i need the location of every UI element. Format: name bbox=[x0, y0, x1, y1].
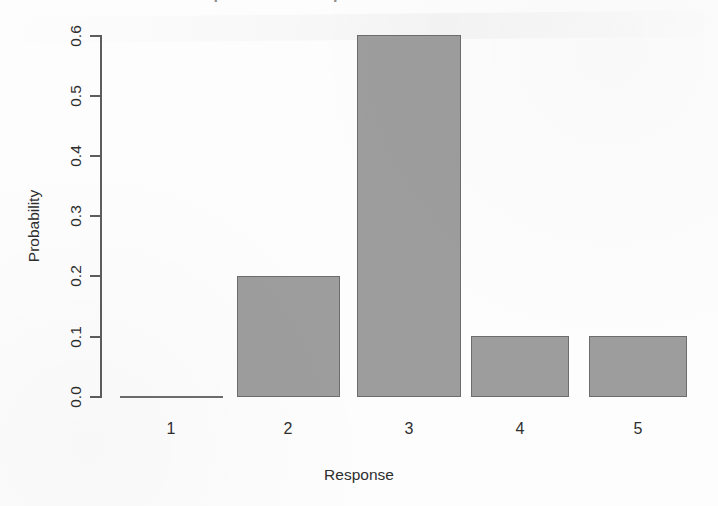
barplot: 0.0 0.1 0.2 0.3 0.4 0.5 0.6 Probability … bbox=[0, 0, 718, 506]
x-axis-tick-label: 5 bbox=[634, 420, 643, 438]
bar-category-5 bbox=[589, 336, 687, 397]
y-axis-tick bbox=[90, 396, 100, 398]
y-axis-tick bbox=[90, 336, 100, 338]
x-axis-title: Response bbox=[0, 466, 718, 484]
x-axis-tick-label: 2 bbox=[284, 420, 293, 438]
bar-category-3 bbox=[357, 35, 461, 397]
x-axis-tick-label: 4 bbox=[516, 420, 525, 438]
y-axis-tick bbox=[90, 215, 100, 217]
y-axis-line bbox=[100, 35, 102, 398]
y-axis-title: Probability bbox=[25, 190, 43, 262]
bar-category-4 bbox=[471, 336, 569, 397]
chart-page: Barplot of Response Probabilities 0.0 0.… bbox=[0, 0, 718, 506]
y-axis-tick bbox=[90, 95, 100, 97]
y-axis-tick bbox=[90, 155, 100, 157]
y-axis-tick bbox=[90, 35, 100, 37]
x-axis-tick-label: 1 bbox=[167, 420, 176, 438]
x-axis-tick-label: 3 bbox=[405, 420, 414, 438]
bar-category-2 bbox=[237, 276, 340, 397]
bar-category-1 bbox=[120, 396, 223, 398]
y-axis-tick bbox=[90, 275, 100, 277]
